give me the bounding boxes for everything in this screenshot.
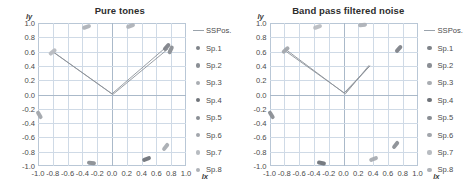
legend-item-sp3[interactable]: Sp.3: [192, 74, 232, 91]
legend-item-sp3[interactable]: Sp.3: [424, 74, 463, 91]
x-tick-label: -0.4: [307, 169, 320, 178]
legend-label: Sp.7: [204, 148, 222, 157]
legend-line-swatch: [424, 30, 435, 32]
x-tick-label: 0.2: [122, 169, 133, 178]
x-tick-label: 0.8: [166, 169, 177, 178]
legend-item-sp6[interactable]: Sp.6: [192, 126, 232, 143]
y-tick-label: -0.8: [11, 147, 35, 156]
x-tick-label: 0.0: [338, 169, 349, 178]
legend-label: Sp.2: [436, 61, 454, 70]
legend-item-sp7[interactable]: Sp.7: [424, 144, 463, 161]
legend-dot-icon: [196, 133, 200, 137]
legend-label: Sp.8: [436, 165, 454, 174]
y-tick-label: 0.6: [243, 47, 267, 56]
x-tick-label: 0.4: [136, 169, 147, 178]
legend-item-sp8[interactable]: Sp.8: [424, 161, 463, 178]
legend-line-swatch: [193, 30, 204, 32]
y-tick-label: 0.0: [11, 90, 35, 99]
legend-label: Sp.7: [436, 148, 454, 157]
panel-title: Pure tones: [0, 5, 232, 16]
legend-0: SSPos.Sp.1Sp.2Sp.3Sp.4Sp.5Sp.6Sp.7Sp.8: [192, 22, 232, 179]
y-tick-label: 0.2: [243, 76, 267, 85]
legend-item-sp4[interactable]: Sp.4: [192, 92, 232, 109]
data-point-sp-5: [87, 160, 96, 165]
figure-container: Pure tones -1.0-0.8-0.6-0.4-0.20.00.20.4…: [0, 0, 463, 193]
sspos-polyline: [54, 49, 169, 95]
sspos-polyline: [53, 47, 167, 94]
legend-dot-icon: [427, 81, 431, 85]
x-tick-label: -0.8: [46, 169, 59, 178]
plot-area-0: -1.0-0.8-0.6-0.4-0.20.00.20.40.60.81.01.…: [38, 23, 186, 166]
legend-label: Sp.1: [204, 44, 222, 53]
legend-item-sp6[interactable]: Sp.6: [424, 126, 463, 143]
legend-dot-icon: [427, 133, 431, 137]
y-tick-label: 0.4: [11, 61, 35, 70]
y-tick-label: 0.8: [243, 33, 267, 42]
y-axis-label: ly: [26, 12, 32, 21]
y-tick-label: -0.6: [11, 133, 35, 142]
x-tick-label: -0.2: [322, 169, 335, 178]
legend-label: Sp.2: [204, 61, 222, 70]
legend-item-sp2[interactable]: Sp.2: [424, 57, 463, 74]
x-tick-label: -0.2: [91, 169, 104, 178]
legend-label: Sp.3: [436, 78, 454, 87]
legend-dot-icon: [196, 98, 200, 102]
legend-item-sp1[interactable]: Sp.1: [424, 39, 463, 56]
legend-item-sp5[interactable]: Sp.5: [424, 109, 463, 126]
x-tick-label: -0.8: [278, 169, 291, 178]
x-tick-label: 0.2: [353, 169, 364, 178]
legend-dot-icon: [196, 116, 200, 120]
x-tick-label: 0.4: [368, 169, 379, 178]
x-tick-label: 1.0: [412, 169, 423, 178]
legend-label: SSPos.: [204, 26, 231, 35]
legend-label: Sp.1: [436, 44, 454, 53]
legend-dot-icon: [427, 116, 431, 120]
y-tick-label: -0.2: [243, 104, 267, 113]
y-tick-label: -0.6: [243, 133, 267, 142]
panel-title: Band pass filtered noise: [232, 5, 463, 16]
x-tick-label: 0.8: [397, 169, 408, 178]
legend-label: Sp.4: [436, 96, 454, 105]
legend-item-sp2[interactable]: Sp.2: [192, 57, 232, 74]
x-tick-label: 0.6: [151, 169, 162, 178]
y-tick-label: -1.0: [243, 162, 267, 171]
y-tick-label: 0.0: [243, 90, 267, 99]
y-tick-label: 0.2: [11, 76, 35, 85]
x-tick-label: -0.6: [61, 169, 74, 178]
x-tick-label: -0.6: [293, 169, 306, 178]
legend-label: Sp.4: [204, 96, 222, 105]
x-tick-label: 0.0: [107, 169, 118, 178]
legend-label: Sp.8: [204, 165, 222, 174]
plot-area-1: -1.0-0.8-0.6-0.4-0.20.00.20.40.60.81.01.…: [270, 23, 418, 166]
y-axis-label: ly: [258, 12, 264, 21]
legend-dot-icon: [427, 63, 431, 67]
legend-item-sp1[interactable]: Sp.1: [192, 39, 232, 56]
legend-label: Sp.6: [436, 131, 454, 140]
sspos-polyline: [284, 49, 369, 93]
chart-panel-pure-tones: Pure tones -1.0-0.8-0.6-0.4-0.20.00.20.4…: [0, 0, 232, 193]
legend-dot-icon: [196, 63, 200, 67]
legend-item-sp8[interactable]: Sp.8: [192, 161, 232, 178]
legend-label: Sp.5: [436, 113, 454, 122]
y-tick-label: -0.8: [243, 147, 267, 156]
legend-dot-icon: [196, 81, 200, 85]
x-tick-label: -0.4: [76, 169, 89, 178]
y-tick-label: 0.8: [11, 33, 35, 42]
y-tick-label: -1.0: [11, 162, 35, 171]
x-tick-label: 0.6: [383, 169, 394, 178]
legend-label: SSPos.: [436, 26, 463, 35]
legend-label: Sp.6: [204, 131, 222, 140]
legend-dot-icon: [196, 46, 200, 50]
legend-item-sspos[interactable]: SSPos.: [192, 22, 232, 39]
y-tick-label: 0.4: [243, 61, 267, 70]
legend-label: Sp.3: [204, 78, 222, 87]
legend-1: SSPos.Sp.1Sp.2Sp.3Sp.4Sp.5Sp.6Sp.7Sp.8: [424, 22, 463, 179]
legend-item-sp5[interactable]: Sp.5: [192, 109, 232, 126]
x-tick-label: 1.0: [181, 169, 192, 178]
legend-item-sspos[interactable]: SSPos.: [424, 22, 463, 39]
chart-panel-band-pass-filtered-noise: Band pass filtered noise -1.0-0.8-0.6-0.…: [232, 0, 463, 193]
legend-item-sp4[interactable]: Sp.4: [424, 92, 463, 109]
legend-dot-icon: [427, 46, 431, 50]
legend-item-sp7[interactable]: Sp.7: [192, 144, 232, 161]
legend-dot-icon: [196, 168, 200, 172]
